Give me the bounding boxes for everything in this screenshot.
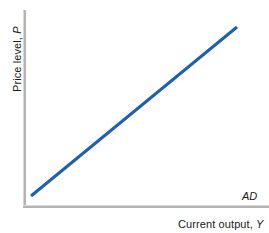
y-axis-title: Price level, P bbox=[11, 0, 23, 92]
ad-curve-line bbox=[31, 27, 237, 196]
y-axis-title-text: Price level, bbox=[11, 34, 23, 92]
aggregate-demand-figure: Price level, P Current output, Y AD bbox=[0, 0, 269, 233]
x-axis-title-variable: Y bbox=[256, 218, 263, 230]
x-axis-title: Current output, Y bbox=[178, 218, 263, 230]
x-axis-title-text: Current output, bbox=[178, 218, 256, 230]
ad-curve-label: AD bbox=[242, 190, 257, 202]
y-axis-title-variable: P bbox=[11, 26, 23, 33]
plot-area bbox=[0, 0, 269, 233]
